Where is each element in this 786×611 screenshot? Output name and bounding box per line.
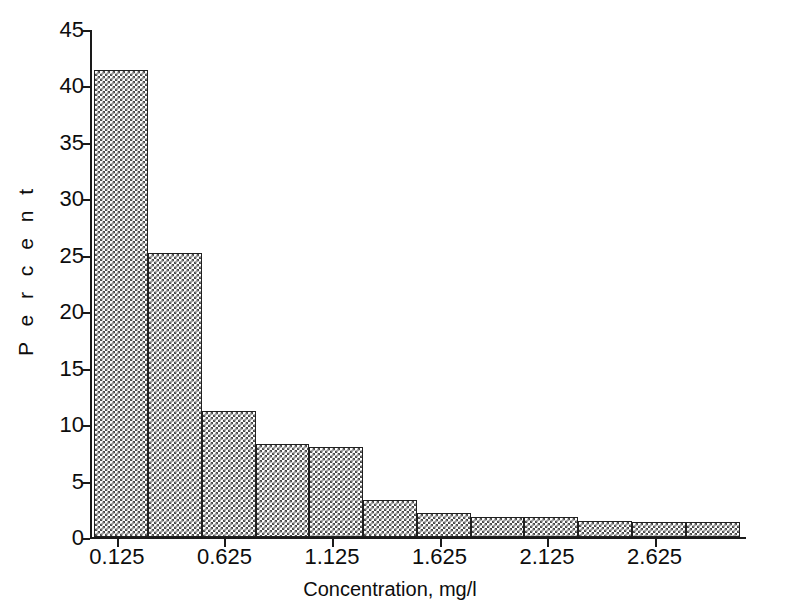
- x-axis-tick-label: 0.625: [197, 545, 252, 569]
- x-axis-tick-label: 1.625: [412, 545, 467, 569]
- histogram-bar: [256, 444, 310, 537]
- x-axis-tick-label: 2.125: [520, 545, 575, 569]
- histogram-bar: [94, 70, 148, 537]
- y-axis-tick-label: 20: [42, 301, 84, 323]
- histogram-bar: [363, 500, 417, 537]
- y-axis-tick-label: 35: [42, 132, 84, 154]
- x-axis-tick-label: 2.625: [627, 545, 682, 569]
- histogram-bar: [417, 513, 471, 537]
- histogram-bar: [471, 517, 525, 537]
- y-axis-tick-label: 30: [42, 188, 84, 210]
- y-axis-tick-mark: [82, 425, 90, 427]
- y-axis-tick-label: 40: [42, 75, 84, 97]
- histogram-bar: [202, 411, 256, 537]
- y-axis-tick-mark: [82, 143, 90, 145]
- histogram-bar: [148, 253, 202, 537]
- x-axis-tick-label: 0.125: [89, 545, 144, 569]
- y-axis-tick-mark: [82, 30, 90, 32]
- x-axis-line: [90, 537, 746, 539]
- y-axis-tick-label: 0: [42, 527, 84, 549]
- y-axis-tick-mark: [82, 86, 90, 88]
- histogram-bar: [578, 521, 632, 537]
- histogram-bar: [524, 517, 578, 537]
- y-axis-title-text: P e r c e n t: [14, 184, 38, 356]
- histogram-bar: [632, 522, 686, 537]
- y-axis-tick-mark: [82, 256, 90, 258]
- histogram-bar: [309, 447, 363, 537]
- y-axis-tick-label: 5: [42, 471, 84, 493]
- y-axis-tick-mark: [82, 312, 90, 314]
- y-axis-tick-mark: [82, 482, 90, 484]
- plot-area: [90, 24, 746, 538]
- x-axis-title-text: Concentration, mg/l: [303, 578, 476, 600]
- x-axis-tick-label: 1.125: [304, 545, 359, 569]
- histogram-figure: P e r c e n t 454035302520151050 0.1250.…: [0, 0, 786, 611]
- y-axis-tick-mark: [82, 369, 90, 371]
- y-axis-tick-mark: [82, 199, 90, 201]
- y-axis-tick-label: 45: [42, 19, 84, 41]
- y-axis-tick-label: 25: [42, 245, 84, 267]
- x-axis-tick-labels: 0.1250.6251.1251.6252.1252.625: [90, 545, 780, 575]
- y-axis-tick-mark: [82, 538, 90, 540]
- x-axis-title: Concentration, mg/l: [0, 578, 786, 601]
- histogram-bar: [686, 522, 740, 537]
- y-axis-tick-label: 15: [42, 358, 84, 380]
- y-axis-tick-label: 10: [42, 414, 84, 436]
- y-axis-tick-labels: 454035302520151050: [36, 0, 84, 611]
- y-axis-line: [90, 30, 92, 538]
